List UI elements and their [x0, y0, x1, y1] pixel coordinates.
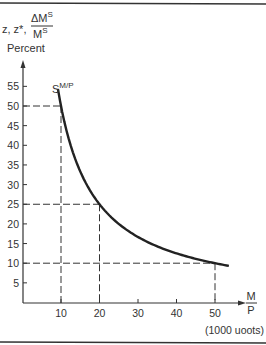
x-tick-label: 30 [132, 307, 144, 319]
y-tick-label: 45 [7, 120, 19, 132]
xlabel-denominator: P [247, 304, 254, 316]
y-tick-label: 35 [7, 159, 19, 171]
y-tick-label: 10 [7, 257, 19, 269]
xlabel-numerator: M [246, 290, 255, 302]
bottom-rule [0, 342, 266, 343]
y-tick-label: 5 [13, 277, 19, 289]
y-tick-label: 30 [7, 179, 19, 191]
xlabel-fraction: M P [246, 290, 257, 316]
x-tick-label: 50 [209, 307, 221, 319]
series-label: SM/P [52, 81, 74, 95]
y-tick-label: 15 [7, 238, 19, 250]
ylabel-percent: Percent [7, 42, 45, 54]
y-tick-label: 50 [7, 100, 19, 112]
y-tick-label: 25 [7, 198, 19, 210]
y-tick-label: 20 [7, 218, 19, 230]
ylabel-fraction: ΔMS MS [31, 10, 53, 40]
chart: z, z*, ΔMS MS Percent 510152025303540455… [0, 0, 266, 345]
x-tick-label: 10 [55, 307, 67, 319]
x-tick-label: 40 [171, 307, 183, 319]
y-axis-arrow [21, 60, 26, 68]
y-tick-label: 40 [7, 139, 19, 151]
x-axis-arrow [238, 301, 246, 306]
y-tick-label: 55 [7, 80, 19, 92]
x-unit-note: (1000 uoots) [205, 324, 264, 336]
top-rule [0, 3, 266, 4]
ylabel-denominator: MS [33, 26, 48, 40]
x-tick-label: 20 [94, 307, 106, 319]
ylabel-vars: z, z*, [2, 23, 26, 35]
ylabel-numerator: ΔMS [31, 10, 53, 24]
series-line-smp [58, 89, 229, 266]
